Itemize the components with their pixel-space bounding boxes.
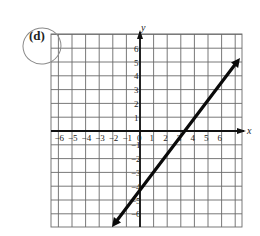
x-tick-label: −3 [95, 133, 105, 143]
y-tick-label: −6 [131, 209, 141, 219]
y-tick-label: 2 [134, 99, 139, 109]
y-tick-label: −1 [131, 140, 141, 150]
x-tick-label: 2 [163, 133, 168, 143]
x-tick-label: −6 [54, 133, 64, 143]
x-tick-label: −4 [82, 133, 92, 143]
y-tick-label: 5 [134, 58, 139, 68]
x-tick-label: 6 [218, 133, 223, 143]
x-axis-arrow-icon [237, 128, 246, 134]
problem-label: (d) [29, 28, 45, 43]
y-axis-label: y [140, 22, 146, 33]
y-tick-label: 3 [134, 85, 139, 95]
coordinate-graph: −6−5−4−3−2−10123456654321−1−2−3−4−5−6 (d… [0, 0, 260, 236]
y-tick-label: −3 [131, 168, 141, 178]
x-tick-label: 4 [190, 133, 195, 143]
x-tick-label: −2 [109, 133, 119, 143]
y-tick-label: −2 [131, 154, 141, 164]
x-tick-label: 5 [204, 133, 209, 143]
axes [51, 30, 246, 227]
x-axis-label: x [246, 125, 252, 136]
y-tick-label: 6 [134, 44, 139, 54]
x-tick-label: −5 [68, 133, 78, 143]
x-tick-label: 1 [150, 133, 155, 143]
y-tick-label: 4 [134, 71, 139, 81]
y-tick-label: 1 [134, 113, 139, 123]
